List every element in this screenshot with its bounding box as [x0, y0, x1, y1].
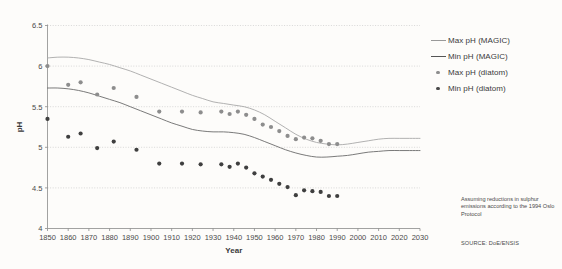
data-point — [228, 112, 232, 116]
legend-item-max-ph-magic: Max pH (MAGIC) — [428, 33, 558, 48]
data-point — [302, 135, 306, 139]
data-point — [310, 189, 314, 193]
y-tick-label: 5 — [38, 143, 42, 152]
x-tick-label: 1940 — [225, 233, 242, 242]
x-tick-label: 1910 — [163, 233, 180, 242]
legend-item-max-ph-diatom: Max pH (diatom) — [428, 65, 558, 80]
data-point — [294, 193, 298, 197]
legend-item-min-ph-magic: Min pH (MAGIC) — [428, 49, 558, 64]
data-point — [269, 125, 273, 129]
x-tick-label: 1850 — [39, 233, 56, 242]
data-point — [180, 109, 184, 113]
data-point — [244, 113, 248, 117]
data-point — [95, 146, 99, 150]
x-tick-label: 2020 — [391, 233, 408, 242]
legend-item-min-ph-diatom: Min pH (diatom) — [428, 81, 558, 96]
legend-label: Max pH (MAGIC) — [448, 36, 510, 45]
data-point — [157, 109, 161, 113]
x-tick-label: 2000 — [350, 233, 367, 242]
data-point — [95, 92, 99, 96]
chart-source: SOURCE: DoE/ENSIS — [461, 240, 519, 246]
data-point — [277, 129, 281, 133]
data-point — [319, 139, 323, 143]
data-point — [252, 171, 256, 175]
data-point — [335, 142, 339, 146]
data-point — [199, 162, 203, 166]
legend-label: Min pH (diatom) — [448, 84, 506, 93]
chart-page: 44.555.566.51850186018701880189019001910… — [0, 0, 562, 269]
data-point — [134, 148, 138, 152]
data-point — [285, 134, 289, 138]
series-line-1 — [48, 88, 421, 157]
x-tick-label: 1920 — [184, 233, 201, 242]
data-point — [277, 182, 281, 186]
data-point — [112, 140, 116, 144]
data-point — [66, 83, 70, 87]
data-point — [45, 117, 49, 121]
x-tick-label: 1950 — [246, 233, 263, 242]
x-tick-label: 2010 — [370, 233, 387, 242]
data-point — [261, 174, 265, 178]
y-tick-label: 6.5 — [32, 21, 42, 30]
data-point — [79, 80, 83, 84]
data-point — [302, 188, 306, 192]
y-axis-title: pH — [15, 121, 24, 132]
x-tick-label: 1880 — [101, 233, 118, 242]
data-point — [327, 194, 331, 198]
legend-key-line-dark — [428, 51, 448, 63]
data-point — [180, 161, 184, 165]
data-point — [112, 86, 116, 90]
data-point — [79, 131, 83, 135]
chart-note: Assuming reductions in sulphur emissions… — [461, 196, 556, 218]
data-point — [66, 135, 70, 139]
data-point — [45, 64, 49, 68]
y-tick-label: 6 — [38, 62, 42, 71]
data-point — [310, 136, 314, 140]
data-point — [285, 185, 289, 189]
data-point — [199, 110, 203, 114]
data-point — [319, 190, 323, 194]
legend-label: Max pH (diatom) — [448, 68, 508, 77]
data-point — [236, 109, 240, 113]
x-tick-label: 1870 — [81, 233, 98, 242]
series-line-0 — [48, 57, 421, 145]
legend-key-line-light — [428, 35, 448, 47]
legend-key-dot-light — [428, 67, 448, 79]
x-tick-label: 1990 — [329, 233, 346, 242]
x-tick-label: 1900 — [143, 233, 160, 242]
data-point — [327, 142, 331, 146]
gridlines — [48, 26, 421, 188]
y-tick-label: 5.5 — [32, 103, 42, 112]
y-axis-ticks: 44.555.566.5 — [32, 21, 47, 233]
data-point — [219, 109, 223, 113]
data-point — [134, 95, 138, 99]
data-point — [228, 165, 232, 169]
x-tick-label: 1980 — [308, 233, 325, 242]
data-point — [157, 161, 161, 165]
data-point — [294, 137, 298, 141]
data-point — [236, 161, 240, 165]
x-tick-label: 2030 — [412, 233, 429, 242]
x-tick-label: 1860 — [60, 233, 77, 242]
x-tick-label: 1960 — [267, 233, 284, 242]
data-point — [261, 122, 265, 126]
x-tick-label: 1930 — [205, 233, 222, 242]
data-point — [335, 194, 339, 198]
chart-legend: Max pH (MAGIC) Min pH (MAGIC) Max pH (di… — [428, 33, 558, 97]
x-axis-ticks: 1850186018701880189019001910192019301940… — [39, 229, 428, 242]
legend-label: Min pH (MAGIC) — [448, 52, 508, 61]
data-point — [252, 117, 256, 121]
y-tick-label: 4.5 — [32, 184, 42, 193]
data-point — [244, 166, 248, 170]
data-point — [269, 178, 273, 182]
x-axis-title: Year — [225, 246, 242, 255]
x-tick-label: 1970 — [287, 233, 304, 242]
legend-key-dot-dark — [428, 83, 448, 95]
data-point — [219, 162, 223, 166]
x-tick-label: 1890 — [122, 233, 139, 242]
